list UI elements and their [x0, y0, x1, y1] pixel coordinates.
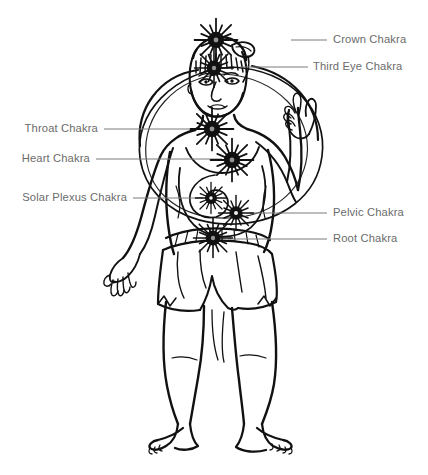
- chakra-diagram-canvas: Crown ChakraThird Eye ChakraThroat Chakr…: [0, 0, 428, 475]
- chakra-third-eye-icon: [195, 49, 234, 88]
- chakra-heart-icon: [211, 139, 254, 182]
- label-crown: Crown Chakra: [333, 34, 406, 45]
- label-solar-plexus: Solar Plexus Chakra: [16, 192, 127, 203]
- label-throat: Throat Chakra: [16, 123, 98, 134]
- chakra-root-icon: [194, 219, 233, 258]
- chakra-solar-plexus-icon: [195, 182, 226, 213]
- chakra-pelvic-icon: [218, 195, 253, 230]
- legs: [164, 302, 277, 424]
- label-root: Root Chakra: [333, 233, 397, 244]
- chakra-throat-icon: [191, 108, 234, 151]
- label-heart: Heart Chakra: [16, 153, 90, 164]
- feet: [149, 424, 292, 454]
- label-pelvic: Pelvic Chakra: [333, 207, 404, 218]
- label-third-eye: Third Eye Chakra: [313, 61, 402, 72]
- lowered-left-hand: [104, 254, 140, 296]
